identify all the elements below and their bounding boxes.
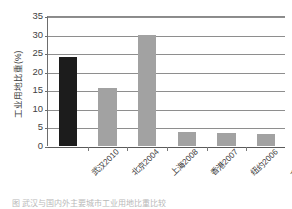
bar [98,88,116,146]
bar-chart-figure: 工业用地比重(%) 05101520253035 武汉2010北京2004上海2… [0,0,292,209]
bar [178,132,196,146]
plot-area [47,16,285,146]
x-category-label: 东京 2007 [290,148,292,180]
bars-group [48,17,285,146]
figure-caption: 图 武汉与国内外主要城市工业用地比重比较 [12,199,282,209]
bar [59,57,77,146]
y-tick-label: 35 [13,11,43,21]
y-tick-label: 5 [13,122,43,132]
y-tick-label: 20 [13,67,43,77]
x-category-label: 武汉2010 [91,148,121,178]
y-tick-label: 30 [13,30,43,40]
y-tick-label: 25 [13,48,43,58]
x-category-label: 北京2004 [131,148,161,178]
bar [138,35,156,146]
x-category-label: 香港2007 [210,148,240,178]
bar [257,134,275,146]
x-category-label: 上海2008 [170,148,200,178]
y-tick-label: 0 [13,141,43,151]
bar [217,133,235,146]
y-tick-label: 10 [13,104,43,114]
x-axis-category-labels: 武汉2010北京2004上海2008香港2007纽约2006东京 2007 [47,148,285,194]
y-tick-label: 15 [13,85,43,95]
x-category-label: 纽约2006 [250,148,280,178]
